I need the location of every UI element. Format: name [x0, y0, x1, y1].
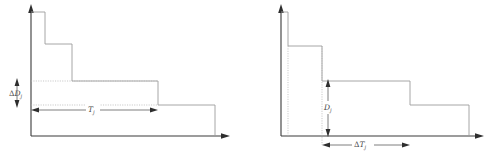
delta-D-label: ΔDj: [9, 89, 23, 100]
x-axis-arrow-icon: [221, 133, 230, 139]
panel-delta-T: Dj ΔTj: [245, 0, 491, 160]
panel-delta-D: ΔDj Tj: [0, 0, 245, 160]
left-chart-svg: ΔDj Tj: [0, 0, 245, 160]
T-arrow-left-icon: [31, 108, 39, 113]
step-outline: [281, 12, 469, 136]
delta-T-arrow-left-icon: [322, 143, 330, 148]
delta-D-arrow-up-icon: [15, 78, 20, 86]
x-axis-arrow-icon: [475, 133, 484, 139]
figure-container: ΔDj Tj Dj: [0, 0, 491, 160]
D-arrow-up-icon: [326, 79, 331, 87]
delta-D-arrow-down-icon: [15, 100, 20, 108]
step-outline: [31, 12, 215, 136]
right-chart-svg: Dj ΔTj: [245, 0, 491, 160]
delta-T-arrow-right-icon: [402, 143, 410, 148]
T-arrow-right-icon: [150, 108, 158, 113]
